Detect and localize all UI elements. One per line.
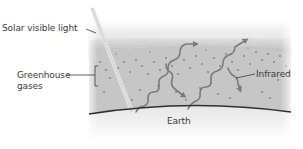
earth-label: Earth xyxy=(167,116,191,127)
infrared-label: Infrared xyxy=(256,69,291,80)
solar-visible-light-label: Solar visible light xyxy=(2,23,77,34)
greenhouse-gases-label: Greenhouse gases xyxy=(17,70,70,92)
greenhouse-label-line1: Greenhouse xyxy=(17,70,70,81)
greenhouse-label-line2: gases xyxy=(17,81,70,92)
greenhouse-effect-diagram: Solar visible light Greenhouse gases Inf… xyxy=(0,0,303,149)
